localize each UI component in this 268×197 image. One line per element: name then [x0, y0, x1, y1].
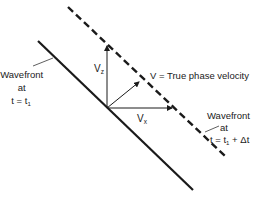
wavefront-t1-line [38, 41, 193, 190]
v-true-phase-velocity-arrow [107, 82, 139, 108]
vx-label: Vx [137, 113, 148, 125]
wavefront-t2-dashed-line [68, 7, 225, 156]
wavefront-t1-label: Wavefront at t = t1 [0, 69, 46, 107]
wave-velocity-diagram: Wavefront at t = t1 Vz V = True phase ve… [0, 0, 268, 197]
vz-label: Vz [94, 63, 104, 75]
wavefront-t1-leader-line [33, 58, 53, 66]
v-true-phase-velocity-label: V = True phase velocity [150, 70, 249, 81]
wavefront-t2-leader-line [205, 126, 219, 132]
